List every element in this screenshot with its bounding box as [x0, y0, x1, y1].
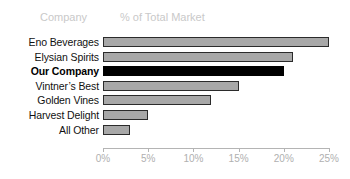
- bar: [103, 110, 148, 120]
- x-axis-tick: [284, 148, 285, 152]
- chart-header: Company % of Total Market: [0, 11, 350, 27]
- x-axis-tick: [329, 148, 330, 152]
- bar: [103, 66, 284, 76]
- x-axis-tick-label: 20%: [274, 153, 294, 164]
- chart-row: Elysian Spirits: [0, 50, 350, 65]
- x-axis-tick: [148, 148, 149, 152]
- category-label: Elysian Spirits: [0, 50, 99, 65]
- plot-area: Eno BeveragesElysian SpiritsOur CompanyV…: [0, 35, 350, 145]
- chart-row: Vintner’s Best: [0, 79, 350, 94]
- x-axis-tick: [103, 148, 104, 152]
- category-label: Eno Beverages: [0, 35, 99, 50]
- category-label: All Other: [0, 123, 99, 138]
- bar: [103, 52, 293, 62]
- x-axis-tick: [239, 148, 240, 152]
- x-axis-line: [103, 148, 329, 149]
- chart-row: Golden Vines: [0, 93, 350, 108]
- x-axis-tick-label: 5%: [141, 153, 155, 164]
- chart-row: Our Company: [0, 64, 350, 79]
- category-label: Vintner’s Best: [0, 79, 99, 94]
- chart-row: All Other: [0, 123, 350, 138]
- category-label: Our Company: [0, 64, 99, 79]
- category-column-header: Company: [40, 11, 87, 23]
- x-axis-tick-label: 0%: [96, 153, 110, 164]
- x-axis-tick: [193, 148, 194, 152]
- x-axis: 0%5%10%15%20%25%: [0, 148, 350, 178]
- x-axis-tick-label: 10%: [183, 153, 203, 164]
- chart-row: Eno Beverages: [0, 35, 350, 50]
- chart-row: Harvest Delight: [0, 108, 350, 123]
- x-axis-tick-label: 25%: [319, 153, 339, 164]
- x-axis-tick-label: 15%: [229, 153, 249, 164]
- bar: [103, 81, 239, 91]
- bar: [103, 95, 211, 105]
- value-column-header: % of Total Market: [120, 11, 205, 23]
- category-label: Golden Vines: [0, 93, 99, 108]
- bar-chart: Company % of Total Market Eno BeveragesE…: [0, 0, 350, 179]
- bar: [103, 37, 329, 47]
- bar: [103, 125, 130, 135]
- category-label: Harvest Delight: [0, 108, 99, 123]
